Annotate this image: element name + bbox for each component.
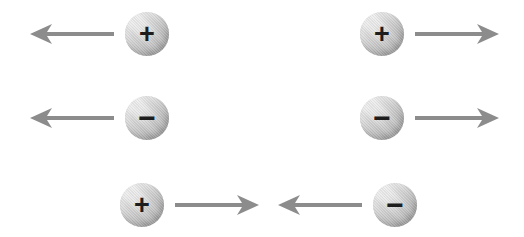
charge-row-1: + + xyxy=(0,4,524,64)
charge-positive: + xyxy=(120,183,164,227)
charge-arrow-pair-row1-left: + xyxy=(30,4,169,64)
arrow-right-icon xyxy=(415,21,499,47)
charge-row-3: + − xyxy=(0,175,524,235)
arrow-right-icon xyxy=(415,105,499,131)
charge-positive: + xyxy=(125,12,169,56)
arrow-right-icon xyxy=(175,192,259,218)
charge-arrow-pair-row2-right: − xyxy=(360,88,499,148)
charge-sign-label: − xyxy=(360,96,404,140)
charge-negative: − xyxy=(373,183,417,227)
charge-negative: − xyxy=(125,96,169,140)
charge-positive: + xyxy=(360,12,404,56)
charge-arrow-pair-row1-right: + xyxy=(360,4,499,64)
charge-arrow-pair-row3-left: + xyxy=(120,175,259,235)
charge-sign-label: − xyxy=(125,96,169,140)
arrow-left-icon xyxy=(30,105,114,131)
arrow-left-icon xyxy=(30,21,114,47)
charge-negative: − xyxy=(360,96,404,140)
charge-sign-label: + xyxy=(125,12,169,56)
charge-row-2: − − xyxy=(0,88,524,148)
charge-force-diagram: + + − − xyxy=(0,0,524,237)
arrow-left-icon xyxy=(278,192,362,218)
charge-sign-label: + xyxy=(120,183,164,227)
charge-sign-label: + xyxy=(360,12,404,56)
charge-sign-label: − xyxy=(373,183,417,227)
charge-arrow-pair-row3-right: − xyxy=(278,175,417,235)
charge-arrow-pair-row2-left: − xyxy=(30,88,169,148)
